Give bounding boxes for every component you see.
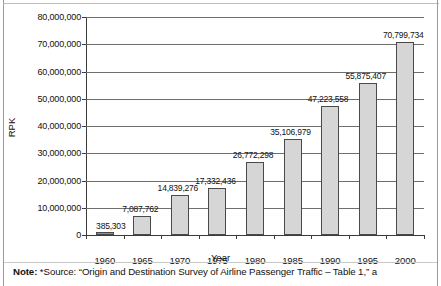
note-divider — [4, 262, 437, 263]
bar — [284, 139, 302, 235]
note-body: *Source: “Origin and Destination Survey … — [40, 266, 377, 277]
y-axis-tick-label: 10,000,000 — [37, 203, 81, 212]
bar-value-label: 70,799,734 — [383, 31, 424, 40]
x-axis-tick — [274, 235, 275, 239]
chart-figure: 010,000,00020,000,00030,000,00040,000,00… — [0, 0, 441, 286]
bar — [96, 232, 114, 235]
gridline — [86, 17, 424, 18]
y-axis-tick-label: 70,000,000 — [37, 40, 81, 49]
y-axis-title: RPK — [6, 108, 17, 148]
plot-area: 385,3037,087,76214,839,27617,332,43626,7… — [86, 17, 424, 235]
y-axis-tick-label: 0 — [76, 231, 81, 240]
x-axis-tick — [311, 235, 312, 239]
bar-value-label: 47,223,558 — [308, 95, 349, 104]
y-axis-tick — [82, 99, 86, 100]
x-axis-tick — [386, 235, 387, 239]
y-axis-tick — [82, 126, 86, 127]
bar-value-label: 17,332,436 — [195, 177, 236, 186]
x-axis-tick — [161, 235, 162, 239]
gridline — [86, 44, 424, 45]
y-axis-tick-label: 60,000,000 — [37, 67, 81, 76]
bar — [171, 195, 189, 235]
x-axis-tick — [86, 235, 87, 239]
x-axis-line — [86, 235, 425, 236]
x-axis-tick — [424, 235, 425, 239]
bar-value-label: 35,106,979 — [270, 128, 311, 137]
y-axis-tick-label: 40,000,000 — [37, 122, 81, 131]
page-frame-top-border — [3, 3, 439, 4]
y-axis-tick-label: 20,000,000 — [37, 176, 81, 185]
y-axis-tick — [82, 72, 86, 73]
bar — [396, 42, 414, 235]
bar — [321, 106, 339, 235]
note-prefix: Note: — [13, 266, 37, 277]
bar-value-label: 7,087,762 — [122, 205, 158, 214]
y-axis-tick — [82, 44, 86, 45]
y-axis-tick — [82, 208, 86, 209]
y-axis-tick-label: 80,000,000 — [37, 13, 81, 22]
y-axis-tick-label: 50,000,000 — [37, 94, 81, 103]
note-text: Note: *Source: “Origin and Destination S… — [13, 266, 433, 278]
bar-value-label: 385,303 — [96, 222, 125, 231]
x-axis-tick — [199, 235, 200, 239]
y-axis-tick-label: 30,000,000 — [37, 149, 81, 158]
page-frame-right-border — [437, 0, 438, 286]
x-axis-tick — [236, 235, 237, 239]
y-axis-tick — [82, 181, 86, 182]
bar-value-label: 26,772,298 — [233, 151, 274, 160]
x-axis-tick — [349, 235, 350, 239]
y-axis-tick — [82, 17, 86, 18]
bar — [359, 83, 377, 235]
bar — [246, 162, 264, 235]
bar-value-label: 55,875,407 — [345, 72, 386, 81]
y-axis-tick — [82, 153, 86, 154]
x-axis-tick — [124, 235, 125, 239]
bar-value-label: 14,839,276 — [158, 184, 199, 193]
bar — [133, 216, 151, 235]
bar — [208, 188, 226, 235]
